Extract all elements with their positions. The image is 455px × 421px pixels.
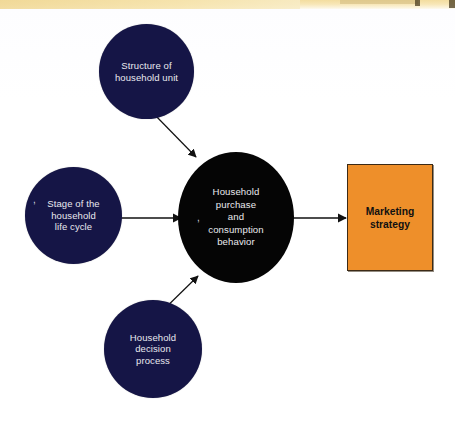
node-marketing-strategy[interactable]: Marketing strategy [347,164,433,271]
page-top-band-notch-right [449,0,455,8]
node-strategy-label: Marketing strategy [366,205,415,231]
node-center-label: Household purchase and consumption behav… [202,186,270,248]
node-household-purchase-and-consumption-behavior[interactable]: Household purchase and consumption behav… [178,152,294,283]
diagram-canvas: Structure of household unit Stage of the… [0,0,455,421]
node-stage-of-household-life-cycle[interactable]: Stage of the household life cycle [25,167,122,264]
node-household-decision-process[interactable]: Household decision process [104,300,202,398]
scan-artifact-comma-stage: , [33,195,36,205]
node-stage-label: Stage of the household life cycle [41,198,105,233]
page-top-band-notch-left [415,0,420,6]
page-top-band [0,0,455,9]
node-structure-label: Structure of household unit [109,60,184,83]
scan-artifact-comma-center: , [197,213,200,223]
page-top-band-shade [0,0,300,9]
node-structure-of-household-unit[interactable]: Structure of household unit [99,24,194,119]
node-decision-label: Household decision process [124,332,182,367]
page-top-band-streak [340,0,418,4]
